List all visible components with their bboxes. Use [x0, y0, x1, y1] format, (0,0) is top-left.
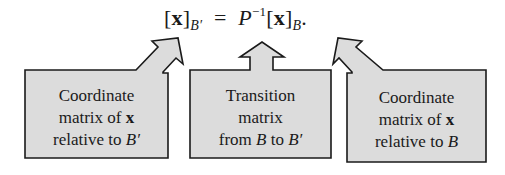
middle-callout-label: Transition matrix from B to B′: [190, 85, 331, 151]
rhs-vector-x: x: [274, 5, 285, 30]
vector-x-bold: x: [126, 108, 135, 127]
transition-matrix-symbol: P: [238, 5, 252, 30]
equals-sign: =: [214, 5, 227, 30]
right-label-line2: matrix of x: [347, 109, 486, 131]
lhs-vector-x: x: [172, 5, 183, 30]
basis-b-prime: B′: [126, 130, 140, 149]
change-of-basis-equation: [x]B′ = P−1[x]B.: [164, 4, 307, 34]
rhs-open-bracket: [: [266, 5, 274, 30]
basis-b: B: [448, 132, 458, 151]
inverse-exponent: −1: [252, 4, 266, 19]
right-label-line1: Coordinate: [347, 87, 486, 109]
middle-label-line3: from B to B′: [190, 129, 331, 151]
middle-label-line2: matrix: [190, 107, 331, 129]
left-label-line2: matrix of x: [25, 107, 168, 129]
left-label-line1: Coordinate: [25, 85, 168, 107]
left-callout-label: Coordinate matrix of x relative to B′: [25, 85, 168, 151]
basis-b-prime: B′: [288, 130, 302, 149]
lhs-open-bracket: [: [164, 5, 172, 30]
vector-x-bold: x: [446, 110, 455, 129]
basis-b: B: [256, 130, 266, 149]
right-label-line3: relative to B: [347, 131, 486, 153]
equation-period: .: [301, 5, 307, 30]
rhs-basis-subscript: B: [292, 18, 301, 33]
middle-label-line1: Transition: [190, 85, 331, 107]
right-callout-label: Coordinate matrix of x relative to B: [347, 87, 486, 153]
left-label-line3: relative to B′: [25, 129, 168, 151]
lhs-basis-subscript: B′: [190, 18, 202, 33]
